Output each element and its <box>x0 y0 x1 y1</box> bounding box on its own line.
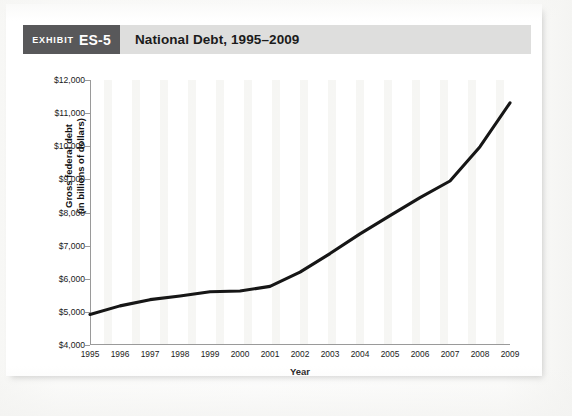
y-tick-label: $12,000 <box>33 75 85 85</box>
y-tick-label: $8,000 <box>33 208 85 218</box>
y-tick-mark <box>85 312 90 313</box>
y-tick-mark <box>85 113 90 114</box>
exhibit-header: EXHIBIT ES-5 National Debt, 1995–2009 <box>23 25 531 54</box>
chart-container: Gross federal debt (in billions of dolla… <box>23 62 531 374</box>
x-tick-label: 1999 <box>201 349 220 359</box>
x-tick-label: 2002 <box>291 349 310 359</box>
exhibit-badge: EXHIBIT ES-5 <box>23 25 120 54</box>
x-tick-label: 2003 <box>321 349 340 359</box>
x-tick-label: 1995 <box>81 349 100 359</box>
x-tick-label: 2001 <box>261 349 280 359</box>
plot-area <box>90 80 510 345</box>
x-axis-title: Year <box>90 366 510 377</box>
x-tick-label: 1998 <box>171 349 190 359</box>
x-tick-label: 2007 <box>441 349 460 359</box>
debt-line-series <box>90 80 510 345</box>
y-tick-mark <box>85 80 90 81</box>
y-tick-label: $10,000 <box>33 141 85 151</box>
y-tick-label: $6,000 <box>33 274 85 284</box>
x-tick-label: 2005 <box>381 349 400 359</box>
y-tick-label: $4,000 <box>33 340 85 350</box>
x-tick-label: 1997 <box>141 349 160 359</box>
title-bar: National Debt, 1995–2009 <box>120 25 531 54</box>
x-tick-label: 2004 <box>351 349 370 359</box>
x-tick-label: 2006 <box>411 349 430 359</box>
x-tick-label: 2000 <box>231 349 250 359</box>
y-tick-mark <box>85 345 90 346</box>
page-title: National Debt, 1995–2009 <box>135 32 299 47</box>
y-tick-mark <box>85 279 90 280</box>
y-tick-mark <box>85 179 90 180</box>
exhibit-number-label: ES-5 <box>79 32 111 48</box>
y-tick-label: $7,000 <box>33 241 85 251</box>
y-tick-label: $9,000 <box>33 174 85 184</box>
exhibit-kicker-label: EXHIBIT <box>32 35 74 45</box>
x-tick-label: 2009 <box>501 349 520 359</box>
y-tick-mark <box>85 146 90 147</box>
x-tick-label: 2008 <box>471 349 490 359</box>
y-tick-label: $11,000 <box>33 108 85 118</box>
y-tick-label: $5,000 <box>33 307 85 317</box>
x-axis-tick-labels: 1995199619971998199920002001200220032004… <box>90 349 510 363</box>
y-tick-mark <box>85 213 90 214</box>
y-axis-tick-labels: $12,000$11,000$10,000$9,000$8,000$7,000$… <box>33 62 85 374</box>
y-tick-mark <box>85 246 90 247</box>
x-tick-label: 1996 <box>111 349 130 359</box>
